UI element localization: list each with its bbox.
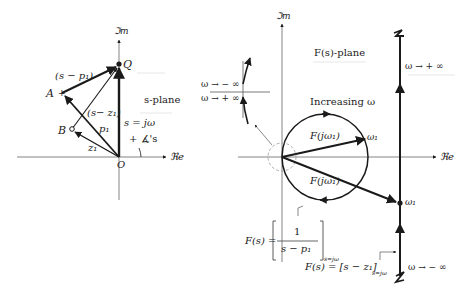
point-q	[116, 61, 121, 66]
point-q-label: Q	[123, 59, 132, 70]
increasing-omega-label: Increasing ω	[310, 97, 375, 107]
f-plane-title: F(s)-plane	[314, 48, 365, 58]
label-z1: z₁	[88, 143, 97, 153]
pole-formula-denominator: s − p₁	[281, 244, 311, 254]
pole-formula-pointer	[298, 206, 303, 216]
label-s-minus-z1: (s− z₁)	[87, 108, 121, 118]
label-s-eq-jw: s = jω	[124, 118, 155, 128]
f-jw1-upper-label: F(jω₁)	[310, 131, 340, 141]
f-real-axis-label: ℜe	[440, 152, 454, 162]
omega1-line-label: ω₁	[405, 198, 416, 207]
break-mark-bottom	[396, 272, 404, 282]
zero-formula-pointer	[380, 252, 396, 260]
inset-plus-inf-label: ω → + ∞	[201, 94, 240, 103]
f-jw1-lower-label: F(jω₁)	[310, 176, 340, 186]
inset-pointer-arrow	[255, 125, 272, 145]
s-imag-axis-label: ℑm	[114, 27, 129, 36]
s-plane-title: s-plane	[144, 95, 180, 105]
omega-plus-inf-label: ω → + ∞	[405, 62, 444, 71]
break-mark-top	[394, 30, 404, 36]
f-imag-axis-label: ℑm	[276, 12, 291, 21]
zero-marker-b	[70, 127, 75, 132]
inset-infinity-detail	[210, 58, 270, 124]
point-a-label: A	[46, 88, 54, 99]
omega1-point	[397, 200, 402, 205]
vector-f-jw1-upper	[282, 139, 365, 157]
f-plane-axes	[238, 24, 436, 262]
pole-formula-lhs: F(s) =	[245, 236, 276, 246]
diagram-canvas: +	[0, 0, 469, 299]
label-p1: p₁	[99, 124, 109, 134]
label-angle: + ∡'s	[129, 134, 157, 144]
origin-label: O	[117, 160, 125, 170]
angle-arc	[139, 148, 141, 157]
s-real-axis-label: ℜe	[170, 152, 184, 162]
zero-formula: F(s) = [s − z₁]	[305, 262, 377, 272]
label-s-minus-p1: (s − p₁)	[55, 71, 93, 81]
omega-minus-inf-label: ω → − ∞	[408, 263, 447, 272]
pole-marker-a: +	[58, 88, 66, 98]
pole-formula-numerator: 1	[294, 227, 300, 237]
point-b-label: B	[58, 125, 66, 136]
omega1-circle-label: ω₁	[367, 133, 378, 142]
zero-formula-subscript: s=jω	[372, 270, 387, 276]
inset-minus-inf-label: ω → − ∞	[201, 80, 240, 89]
